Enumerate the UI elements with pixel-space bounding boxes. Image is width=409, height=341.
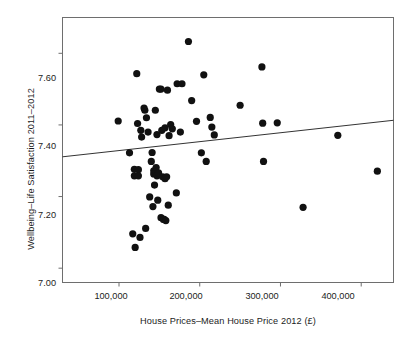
x-axis-title: House Prices–Mean House Price 2012 (£) [62,316,394,326]
data-point [165,132,172,139]
data-point [198,149,205,156]
data-point [188,97,195,104]
data-point [134,120,141,127]
y-tick-label-700: 7.00 [22,278,56,288]
data-point [149,203,156,210]
data-point [149,149,156,156]
data-point [200,71,207,78]
data-point [132,244,139,251]
data-point [208,123,215,130]
x-tick-label-200000: 200,000 [156,291,216,301]
data-point [162,217,169,224]
y-tick-marks [59,53,63,268]
data-point [141,107,148,114]
data-points [115,38,381,251]
data-point [148,158,155,165]
data-point [203,158,210,165]
data-point [164,87,171,94]
y-tick-label-740: 7.40 [22,141,56,151]
data-point [126,149,133,156]
data-point [260,158,267,165]
data-point [193,118,200,125]
data-point [144,128,151,135]
data-point [142,225,149,232]
data-point [334,132,341,139]
plot-area [0,0,409,341]
data-point [173,189,180,196]
plot-frame [63,18,394,283]
data-point [165,202,172,209]
data-point [259,120,266,127]
x-tick-label-400000: 400,000 [308,291,368,301]
data-point [274,119,281,126]
data-point [237,102,244,109]
data-point [143,114,150,121]
data-point [169,125,176,132]
data-point [157,86,164,93]
data-point [258,63,265,70]
data-point [299,204,306,211]
data-point [211,131,218,138]
data-point [146,193,153,200]
data-point [374,168,381,175]
x-tick-label-100000: 100,000 [81,291,141,301]
y-tick-label-720: 7.20 [22,210,56,220]
data-point [136,234,143,241]
x-tick-marks [119,283,361,287]
data-point [152,107,159,114]
data-point [207,114,214,121]
data-point [163,173,170,180]
data-point [135,172,142,179]
y-axis-title: Wellbeing–Life Satisfaction 2011–2012 [26,54,36,284]
data-point [154,197,161,204]
data-point [129,230,136,237]
scatter-plot-figure: Wellbeing–Life Satisfaction 2011–2012 7.… [0,0,409,341]
trend-line [63,120,394,157]
data-point [185,38,192,45]
trend-line-path [63,120,394,157]
data-point [133,70,140,77]
y-tick-label-760: 7.60 [22,73,56,83]
data-point [137,127,144,134]
data-point [177,128,184,135]
x-tick-label-300000: 300,000 [232,291,292,301]
data-point [178,80,185,87]
data-point [115,117,122,124]
data-point [151,181,158,188]
data-point [138,134,145,141]
